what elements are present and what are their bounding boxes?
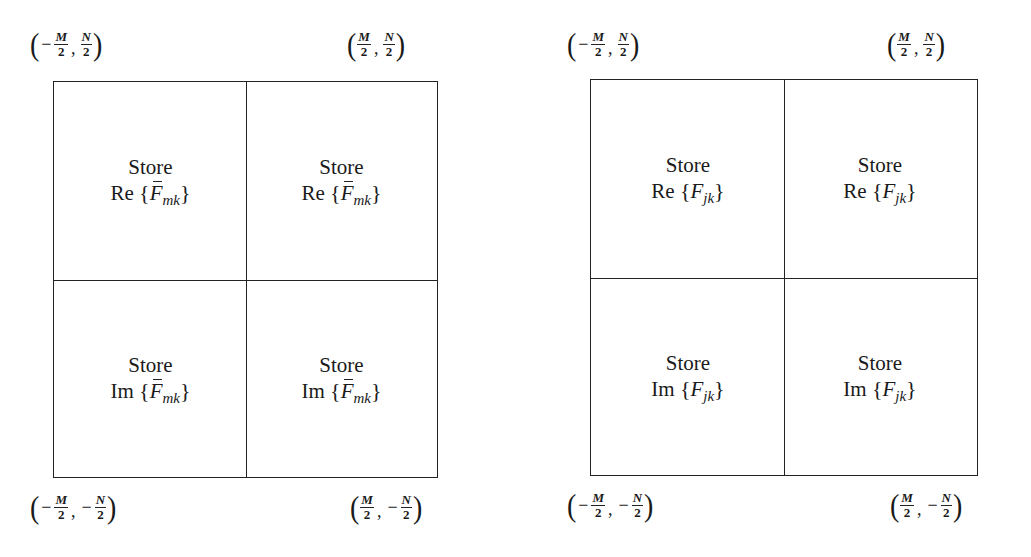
corner-label-top-left: ( − M2 , N2 ): [30, 30, 102, 59]
comma: ,: [608, 38, 613, 59]
paren-close: ): [107, 491, 116, 523]
cell-expression: Im {Fjk}: [843, 376, 916, 404]
variable-f: F: [882, 178, 895, 204]
cell-verb: Store: [666, 152, 710, 178]
numerator: N: [95, 493, 106, 508]
brace-close: }: [906, 178, 917, 203]
fraction-m-over-2: M2: [591, 30, 605, 59]
denominator: 2: [595, 506, 602, 520]
cell-store-im-fbar-mk-bottom-left: Store Im {Fmk}: [54, 281, 247, 476]
fraction-n-over-2: N2: [95, 493, 106, 522]
denominator: 2: [634, 506, 641, 520]
fraction-m-over-2: M2: [591, 491, 605, 520]
numerator: M: [900, 491, 914, 506]
cell-expression: Re {Fmk}: [110, 180, 190, 208]
cell-expression: Re {Fjk}: [843, 178, 916, 206]
fraction-n-over-2: N2: [81, 30, 92, 59]
numerator: M: [357, 30, 371, 45]
minus-sign: −: [619, 495, 629, 516]
paren-open: (: [567, 28, 576, 60]
subscript: mk: [353, 390, 371, 406]
comma: ,: [374, 38, 379, 59]
variable-f-overbar: F: [150, 180, 163, 206]
cell-store-re-f-jk-top-left: Store Re {Fjk}: [591, 80, 785, 278]
paren-close: ): [936, 28, 945, 60]
cell-store-re-fbar-mk-top-left: Store Re {Fmk}: [54, 82, 247, 280]
corner-label-top-right: ( M2 , N2 ): [887, 30, 945, 59]
cell-verb: Store: [858, 350, 902, 376]
operator: Re: [301, 181, 324, 205]
operator: Im: [843, 377, 866, 401]
numerator: M: [591, 491, 605, 506]
right-storage-grid: Store Re {Fjk} Store Re {Fjk} Store Im {…: [590, 79, 978, 476]
denominator: 2: [97, 508, 104, 522]
numerator: M: [591, 30, 605, 45]
comma: ,: [608, 499, 613, 520]
fraction-n-over-2: N2: [632, 491, 643, 520]
operator: Im: [301, 379, 324, 403]
cell-verb: Store: [128, 154, 172, 180]
paren-close: ): [93, 28, 102, 60]
cell-expression: Im {Fmk}: [301, 378, 381, 406]
comma: ,: [71, 501, 76, 522]
comma: ,: [71, 38, 76, 59]
denominator: 2: [58, 508, 65, 522]
fraction-n-over-2: N2: [383, 30, 394, 59]
subscript: jk: [895, 388, 906, 404]
denominator: 2: [926, 45, 933, 59]
subscript: mk: [162, 192, 180, 208]
fraction-n-over-2: N2: [923, 30, 934, 59]
paren-close: ): [630, 28, 639, 60]
paren-open: (: [887, 28, 896, 60]
brace-close: }: [371, 378, 382, 403]
operator: Im: [651, 377, 674, 401]
paren-open: (: [347, 28, 356, 60]
paren-close: ): [396, 28, 405, 60]
fraction-m-over-2: M2: [54, 30, 68, 59]
brace-open: {: [680, 376, 691, 401]
left-storage-grid: Store Re {Fmk} Store Re {Fmk} Store Im {…: [53, 81, 438, 478]
cell-store-im-fbar-mk-bottom-right: Store Im {Fmk}: [247, 281, 436, 476]
operator: Im: [110, 379, 133, 403]
brace-open: {: [872, 376, 883, 401]
denominator: 2: [83, 45, 90, 59]
numerator: M: [54, 493, 68, 508]
comma: ,: [917, 499, 922, 520]
paren-open: (: [567, 489, 576, 521]
corner-label-bottom-right: ( M2 , − N2 ): [350, 493, 422, 522]
subscript: mk: [353, 192, 371, 208]
cell-verb: Store: [319, 154, 363, 180]
brace-close: }: [714, 178, 725, 203]
numerator: M: [54, 30, 68, 45]
variable-f: F: [882, 376, 895, 402]
paren-open: (: [30, 28, 39, 60]
paren-open: (: [350, 491, 359, 523]
corner-label-bottom-left: ( − M2 , − N2 ): [567, 491, 653, 520]
brace-close: }: [906, 376, 917, 401]
cell-verb: Store: [128, 352, 172, 378]
variable-f-overbar: F: [150, 378, 163, 404]
minus-sign: −: [578, 34, 588, 55]
minus-sign: −: [82, 497, 92, 518]
paren-close: ): [644, 489, 653, 521]
operator: Re: [110, 181, 133, 205]
brace-open: {: [139, 180, 150, 205]
corner-label-top-right: ( M2 , N2 ): [347, 30, 405, 59]
denominator: 2: [620, 45, 627, 59]
denominator: 2: [943, 506, 950, 520]
comma: ,: [914, 38, 919, 59]
denominator: 2: [386, 45, 393, 59]
subscript: jk: [703, 190, 714, 206]
numerator: N: [941, 491, 952, 506]
fraction-n-over-2: N2: [941, 491, 952, 520]
denominator: 2: [403, 508, 410, 522]
brace-close: }: [714, 376, 725, 401]
minus-sign: −: [387, 497, 397, 518]
numerator: N: [81, 30, 92, 45]
cell-expression: Re {Fjk}: [651, 178, 724, 206]
numerator: M: [360, 493, 374, 508]
numerator: N: [923, 30, 934, 45]
variable-f: F: [690, 376, 703, 402]
cell-verb: Store: [319, 352, 363, 378]
minus-sign: −: [41, 34, 51, 55]
